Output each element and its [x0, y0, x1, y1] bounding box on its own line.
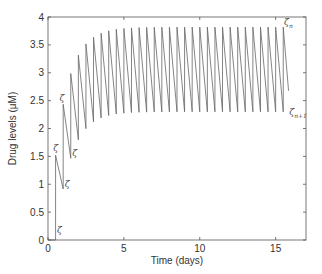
zeta-annotation: ζ [59, 93, 65, 103]
y-tick-label: 1 [38, 179, 44, 190]
y-tick-label: 2.5 [30, 95, 44, 106]
y-axis-title: Drug levels (μM) [7, 92, 18, 166]
y-tick-label: 3 [38, 67, 44, 78]
y-axis-ticks: 00.511.522.533.54 [30, 12, 306, 246]
zeta-annotation: ζ [72, 148, 78, 158]
y-tick-label: 2 [38, 123, 44, 134]
x-tick-label: 0 [45, 243, 51, 254]
x-tick-label: 10 [194, 243, 206, 254]
x-axis-ticks: 051015 [45, 17, 281, 254]
zeta-annotation: ζn+1 [289, 107, 307, 119]
zeta-annotation: ζ [57, 225, 63, 235]
annotations: ζζζζζζnζn+1 [53, 17, 307, 235]
y-tick-label: 3.5 [30, 39, 44, 50]
x-axis-title: Time (days) [151, 255, 203, 266]
y-tick-label: 0 [38, 235, 44, 246]
drug-level-line [48, 27, 289, 240]
zeta-annotation: ζ [53, 143, 59, 153]
x-tick-label: 5 [121, 243, 127, 254]
y-tick-label: 1.5 [30, 151, 44, 162]
y-tick-label: 0.5 [30, 207, 44, 218]
zeta-annotation: ζ [65, 179, 71, 189]
x-tick-label: 15 [270, 243, 282, 254]
drug-level-chart: 051015 00.511.522.533.54 ζζζζζζnζn+1 Tim… [0, 0, 322, 274]
zeta-annotation: ζn [284, 17, 293, 29]
y-tick-label: 4 [38, 12, 44, 23]
